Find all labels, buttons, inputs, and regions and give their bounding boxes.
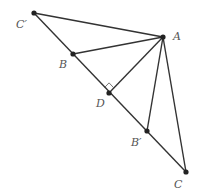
point-C [183,169,188,174]
point-D [106,90,111,95]
point-B [70,51,75,56]
geometry-diagram: A B C D B′ C′ [0,0,204,196]
label-B: B [58,58,67,71]
point-Bp [144,128,149,133]
label-C: C [174,178,183,191]
label-A: A [172,30,181,43]
labels: A B C D B′ C′ [16,18,183,191]
point-A [160,34,165,39]
label-C-prime: C′ [16,18,27,31]
point-Cp [31,10,36,15]
label-B-prime: B′ [130,136,142,149]
label-D: D [95,97,105,110]
